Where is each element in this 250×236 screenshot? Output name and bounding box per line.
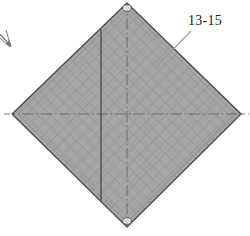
mesh-panel (12, 3, 241, 227)
bottom-grommet (123, 218, 131, 224)
bottom-grommet-inner (125, 220, 129, 223)
top-grommet (123, 5, 131, 11)
figure-canvas: 13-15 (0, 0, 250, 236)
technical-drawing (0, 0, 250, 236)
top-grommet-inner (125, 7, 129, 10)
view-direction-arrow (0, 30, 11, 47)
mesh-panel-shading (12, 3, 241, 227)
reference-numeral-label: 13-15 (188, 14, 222, 28)
